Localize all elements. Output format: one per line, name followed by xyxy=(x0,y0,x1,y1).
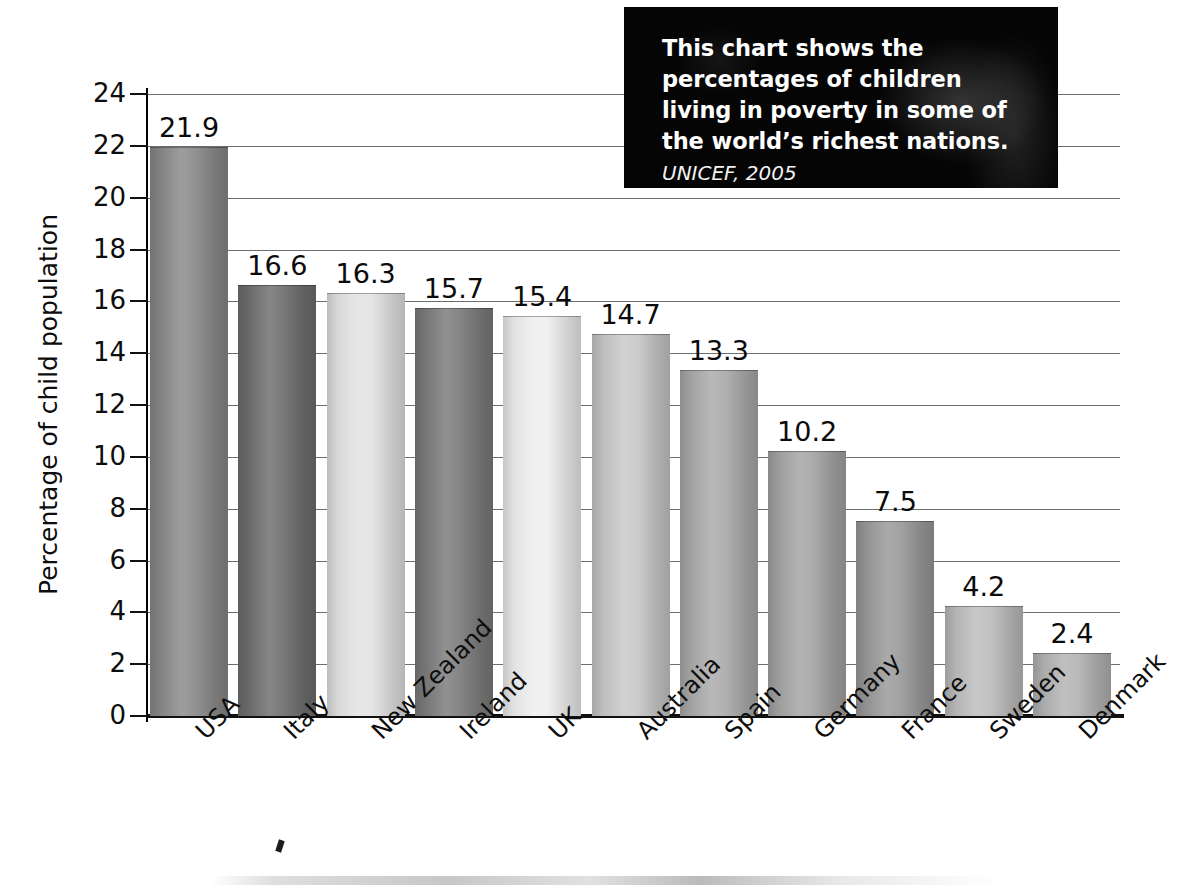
y-axis-tick-label: 2 xyxy=(66,650,126,676)
bar-value-label: 13.3 xyxy=(689,336,749,366)
y-axis-tick xyxy=(130,93,148,95)
caption-main-text: This chart shows the percentages of chil… xyxy=(662,33,1032,157)
scan-artifact-mark xyxy=(275,839,284,852)
bar-value-label: 16.3 xyxy=(336,259,396,289)
y-axis-tick xyxy=(130,508,148,510)
bar-value-label: 21.9 xyxy=(159,113,219,143)
bar-value-label: 16.6 xyxy=(247,251,307,281)
y-axis-tick xyxy=(130,560,148,562)
y-axis-tick xyxy=(130,197,148,199)
bar-usa[interactable]: 21.9 xyxy=(150,147,228,716)
y-axis-tick-label: 18 xyxy=(66,236,126,262)
bar-value-label: 4.2 xyxy=(962,572,1005,602)
y-axis-tick xyxy=(130,352,148,354)
bar-value-label: 2.4 xyxy=(1051,619,1094,649)
bar-new-zealand[interactable]: 16.3 xyxy=(327,293,405,716)
y-axis-tick-label: 16 xyxy=(66,287,126,313)
scan-artifact-strip xyxy=(210,876,1000,885)
y-axis-tick-label: 12 xyxy=(66,391,126,417)
bar-value-label: 15.4 xyxy=(512,282,572,312)
bar-australia[interactable]: 14.7 xyxy=(592,334,670,716)
bar-germany[interactable]: 10.2 xyxy=(768,451,846,716)
bar-value-label: 10.2 xyxy=(777,417,837,447)
caption-source-text: UNICEF, 2005 xyxy=(662,159,1032,187)
y-axis-tick-label: 24 xyxy=(66,80,126,106)
y-axis-tick-label: 8 xyxy=(66,495,126,521)
y-axis-tick xyxy=(130,300,148,302)
bar-italy[interactable]: 16.6 xyxy=(238,285,316,716)
y-axis-tick xyxy=(130,249,148,251)
bar-value-label: 7.5 xyxy=(874,487,917,517)
y-axis-tick xyxy=(130,611,148,613)
y-axis-tick xyxy=(130,456,148,458)
gridline xyxy=(148,198,1120,199)
y-axis-tick-label: 22 xyxy=(66,132,126,158)
y-axis-tick-label: 10 xyxy=(66,443,126,469)
bar-value-label: 15.7 xyxy=(424,274,484,304)
y-axis-tick-label: 14 xyxy=(66,339,126,365)
caption-box: This chart shows the percentages of chil… xyxy=(624,7,1058,188)
bar-uk[interactable]: 15.4 xyxy=(503,316,581,716)
y-axis-tick-label: 20 xyxy=(66,184,126,210)
chart-page: Percentage of child population 024681012… xyxy=(0,0,1178,890)
y-axis-tick-label: 6 xyxy=(66,547,126,573)
y-axis-tick xyxy=(130,663,148,665)
y-axis-tick-label: 0 xyxy=(66,702,126,728)
bar-value-label: 14.7 xyxy=(600,300,660,330)
y-axis-tick-labels: 024681012141618202224 xyxy=(58,0,126,890)
y-axis-tick-label: 4 xyxy=(66,598,126,624)
y-axis-tick xyxy=(130,715,148,717)
y-axis-tick xyxy=(130,404,148,406)
y-axis-tick xyxy=(130,145,148,147)
